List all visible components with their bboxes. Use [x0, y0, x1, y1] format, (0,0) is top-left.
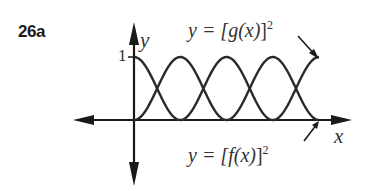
- y-axis-up-arrow-icon: [129, 22, 139, 45]
- curve-g-squared: [134, 57, 319, 120]
- g-label-prefix: y = [: [188, 19, 228, 41]
- f-label-power: 2: [263, 143, 269, 157]
- graph: [0, 0, 365, 191]
- y-tick-label-one: 1: [118, 46, 127, 66]
- y-axis: [128, 22, 139, 186]
- x-axis: [73, 115, 352, 125]
- y-axis-down-arrow-icon: [129, 162, 139, 186]
- g-annotation-arrow: [298, 36, 319, 59]
- g-label-arg: (x): [238, 19, 260, 41]
- g-label-power: 2: [267, 18, 273, 32]
- f-label-arg: (x): [234, 144, 256, 166]
- x-axis-left-arrow-icon: [73, 115, 94, 125]
- g-label-name: g: [228, 19, 238, 41]
- f-squared-label: y = [f(x)]2: [188, 143, 269, 167]
- f-label-prefix: y = [: [188, 144, 228, 166]
- f-annotation-arrow: [304, 121, 319, 141]
- curve-f-squared: [134, 57, 319, 120]
- f-label-suffix: ]: [256, 144, 263, 166]
- g-squared-label: y = [g(x)]2: [188, 18, 273, 42]
- arrowhead-icon: [312, 121, 319, 129]
- x-axis-label: x: [334, 124, 343, 149]
- y-axis-label: y: [140, 28, 149, 53]
